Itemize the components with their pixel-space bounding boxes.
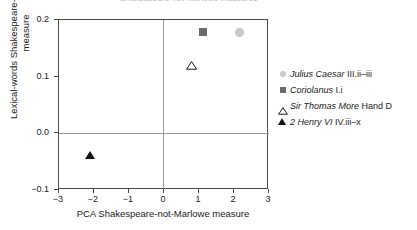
data-point: [199, 28, 207, 36]
y-axis-label-line2: measure: [20, 0, 32, 119]
legend-label: 2 Henry VI IV.iii–x: [290, 117, 361, 127]
x-axis-label: PCA Shakespeare-not-Marlowe measure: [58, 208, 268, 219]
legend-label-title: Julius Caesar: [290, 69, 345, 79]
x-tick-label: 2: [230, 194, 235, 204]
x-tick-label: −1: [123, 194, 133, 204]
reference-line-y-zero: [59, 133, 269, 134]
data-point: [85, 151, 95, 159]
y-axis-label-line1: Lexical-words Shakespeare-not-Marlowe: [8, 0, 20, 119]
legend-marker-icon: [276, 98, 290, 114]
legend-marker-icon: [276, 82, 290, 98]
legend-label: Coriolanus I.i: [290, 85, 343, 95]
x-tick-label: 0: [160, 194, 165, 204]
legend-label: Julius Caesar III.ii–iii: [290, 69, 372, 79]
legend: Julius Caesar III.ii–iiiCoriolanus I.iSi…: [276, 66, 416, 130]
scatter-plot-figure: Shakespeare-not-Marlowe measures −3−2−10…: [0, 0, 417, 230]
y-tick-mark: [54, 76, 58, 77]
y-tick-label: 0.0: [36, 127, 49, 137]
y-tick-label: 0.2: [36, 14, 49, 24]
reference-line-x-zero: [163, 20, 164, 190]
x-tick-mark: [128, 189, 129, 193]
x-tick-label: −3: [53, 194, 63, 204]
x-tick-mark: [93, 189, 94, 193]
y-tick-mark: [54, 189, 58, 190]
y-tick-mark: [54, 132, 58, 133]
x-tick-mark: [268, 189, 269, 193]
legend-item: 2 Henry VI IV.iii–x: [276, 114, 416, 130]
legend-item: Julius Caesar III.ii–iii: [276, 66, 416, 82]
legend-marker-icon: [276, 114, 290, 130]
data-point: [235, 28, 244, 37]
legend-item: Coriolanus I.i: [276, 82, 416, 98]
x-tick-mark: [198, 189, 199, 193]
x-tick-label: 1: [195, 194, 200, 204]
x-tick-mark: [58, 189, 59, 193]
legend-label-reference: IV.iii–x: [333, 117, 361, 127]
legend-label-title: Sir Thomas More: [290, 101, 359, 111]
legend-label: Sir Thomas More Hand D: [290, 101, 392, 111]
y-tick-label: −0.1: [31, 184, 49, 194]
y-axis-label: Lexical-words Shakespeare-not-Marlowe me…: [7, 0, 33, 123]
legend-label-reference: III.ii–iii: [345, 69, 373, 79]
legend-label-title: Coriolanus: [290, 85, 333, 95]
legend-label-reference: I.i: [333, 85, 343, 95]
x-tick-mark: [163, 189, 164, 193]
legend-label-title: 2 Henry VI: [290, 117, 333, 127]
y-tick-label: 0.1: [36, 71, 49, 81]
plot-area: [58, 19, 268, 189]
legend-item: Sir Thomas More Hand D: [276, 98, 416, 114]
x-tick-label: −2: [88, 194, 98, 204]
x-tick-label: 3: [265, 194, 270, 204]
data-point: [186, 56, 197, 65]
legend-label-reference: Hand D: [359, 101, 392, 111]
figure-title-cropped: Shakespeare-not-Marlowe measures: [120, 0, 320, 2]
x-tick-mark: [233, 189, 234, 193]
y-tick-mark: [54, 19, 58, 20]
legend-marker-icon: [276, 66, 290, 82]
